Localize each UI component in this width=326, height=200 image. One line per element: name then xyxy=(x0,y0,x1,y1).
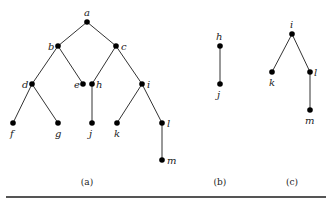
node-label-i: i xyxy=(290,19,293,30)
node-h xyxy=(217,43,223,49)
node-e xyxy=(80,81,86,87)
node-k xyxy=(114,120,120,126)
node-label-m: m xyxy=(305,115,314,126)
node-label-d: d xyxy=(22,79,28,90)
node-j xyxy=(217,81,223,87)
node-m xyxy=(159,157,165,163)
node-label-c: c xyxy=(121,41,127,52)
node-label-k: k xyxy=(114,128,120,139)
node-k xyxy=(269,69,275,75)
edge-i-k xyxy=(272,34,292,72)
edge-c-i xyxy=(116,46,142,84)
caption-a: (a) xyxy=(81,177,93,187)
figure-a: abcdehifgjklm(a) xyxy=(9,7,176,187)
node-label-j: j xyxy=(215,89,220,100)
caption-b: (b) xyxy=(214,177,227,187)
node-j xyxy=(89,120,95,126)
node-label-j: j xyxy=(87,128,92,139)
edge-i-l xyxy=(142,84,162,123)
node-h xyxy=(89,81,95,87)
node-i xyxy=(289,31,295,37)
node-label-a: a xyxy=(84,7,90,18)
edge-d-g xyxy=(32,84,58,123)
node-f xyxy=(10,120,16,126)
tree-diagram: abcdehifgjklm(a)hj(b)iklm(c) xyxy=(0,0,326,200)
caption-c: (c) xyxy=(286,177,298,187)
node-label-l: l xyxy=(314,67,317,78)
node-b xyxy=(55,43,61,49)
node-l xyxy=(159,120,165,126)
node-label-f: f xyxy=(9,128,16,139)
node-label-l: l xyxy=(167,118,170,129)
node-label-e: e xyxy=(74,79,80,90)
node-label-b: b xyxy=(48,41,54,52)
node-g xyxy=(55,120,61,126)
node-label-i: i xyxy=(147,79,150,90)
node-i xyxy=(139,81,145,87)
node-label-m: m xyxy=(167,155,176,166)
edge-a-c xyxy=(87,22,116,46)
node-c xyxy=(113,43,119,49)
figure-c: iklm(c) xyxy=(269,19,317,187)
node-label-h: h xyxy=(96,79,102,90)
node-label-h: h xyxy=(216,31,222,42)
node-a xyxy=(84,19,90,25)
node-label-k: k xyxy=(269,77,275,88)
edge-a-b xyxy=(58,22,87,46)
node-m xyxy=(307,107,313,113)
node-label-g: g xyxy=(55,128,61,139)
node-l xyxy=(307,69,313,75)
edge-i-k xyxy=(117,84,142,123)
node-d xyxy=(29,81,35,87)
figure-b: hj(b) xyxy=(214,31,227,187)
edge-i-l xyxy=(292,34,310,72)
